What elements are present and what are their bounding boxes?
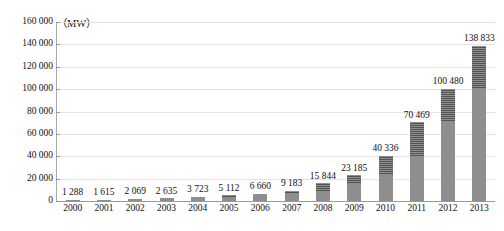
x-tick-label: 2002 xyxy=(126,204,145,214)
y-tick-label: 0 xyxy=(48,196,53,206)
x-tick-label: 2000 xyxy=(63,204,82,214)
chart-container: （MW） 020 00040 00060 00080 000100 000120… xyxy=(0,0,504,231)
y-tick-label: 20 000 xyxy=(27,174,53,184)
x-tick-label: 2003 xyxy=(157,204,176,214)
y-tick-label: 80 000 xyxy=(27,107,53,117)
y-tick-label: 120 000 xyxy=(22,62,53,72)
x-tick-label: 2008 xyxy=(313,204,332,214)
y-axis-tick-labels: 020 00040 00060 00080 000100 000120 0001… xyxy=(0,0,53,231)
x-axis-tick-labels: 2000200120022003200420052006200720082009… xyxy=(57,0,495,231)
y-tick-label: 60 000 xyxy=(27,129,53,139)
y-tick-mark xyxy=(56,134,60,135)
x-tick-label: 2006 xyxy=(251,204,270,214)
x-tick-label: 2007 xyxy=(282,204,301,214)
y-tick-mark xyxy=(56,44,60,45)
x-tick-label: 2010 xyxy=(376,204,395,214)
y-tick-mark xyxy=(56,156,60,157)
x-tick-label: 2005 xyxy=(220,204,239,214)
y-tick-label: 40 000 xyxy=(27,152,53,162)
x-tick-label: 2004 xyxy=(188,204,207,214)
y-tick-mark xyxy=(56,89,60,90)
x-tick-label: 2009 xyxy=(345,204,364,214)
y-tick-mark xyxy=(56,67,60,68)
y-tick-label: 140 000 xyxy=(22,40,53,50)
y-tick-mark xyxy=(56,201,60,202)
x-tick-label: 2001 xyxy=(94,204,113,214)
y-tick-mark xyxy=(56,22,60,23)
x-tick-label: 2013 xyxy=(470,204,489,214)
x-tick-label: 2012 xyxy=(439,204,458,214)
y-tick-mark xyxy=(56,179,60,180)
y-tick-label: 160 000 xyxy=(22,17,53,27)
y-tick-label: 100 000 xyxy=(22,84,53,94)
x-tick-label: 2011 xyxy=(407,204,426,214)
y-tick-mark xyxy=(56,112,60,113)
